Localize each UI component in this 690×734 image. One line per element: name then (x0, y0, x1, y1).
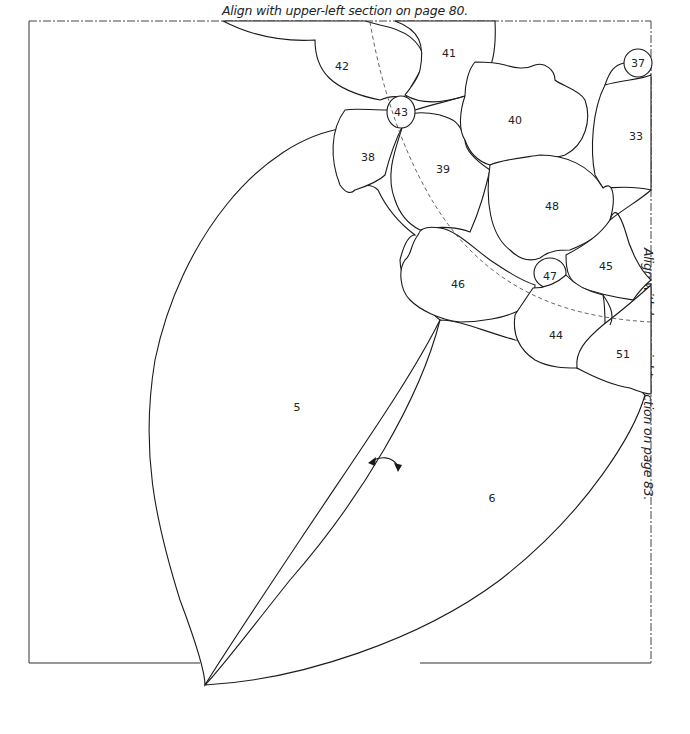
label-piece-46: 46 (451, 278, 465, 291)
label-piece-6: 6 (489, 492, 496, 505)
label-piece-39: 39 (436, 163, 450, 176)
label-piece-44: 44 (549, 329, 563, 342)
label-piece-38: 38 (361, 151, 375, 164)
label-piece-5: 5 (294, 401, 301, 414)
label-piece-37: 37 (631, 57, 645, 70)
piece-40 (460, 62, 587, 165)
label-piece-51: 51 (616, 348, 630, 361)
piece-42 (223, 21, 425, 100)
label-piece-43: 43 (394, 106, 408, 119)
label-piece-33: 33 (629, 130, 643, 143)
label-piece-41: 41 (442, 47, 456, 60)
label-piece-47: 47 (543, 270, 557, 283)
label-piece-40: 40 (508, 114, 522, 127)
pattern-diagram: 42 41 37 43 40 33 38 39 48 47 45 46 44 5… (0, 0, 690, 734)
label-piece-45: 45 (599, 260, 613, 273)
label-piece-42: 42 (335, 60, 349, 73)
label-piece-48: 48 (545, 200, 559, 213)
